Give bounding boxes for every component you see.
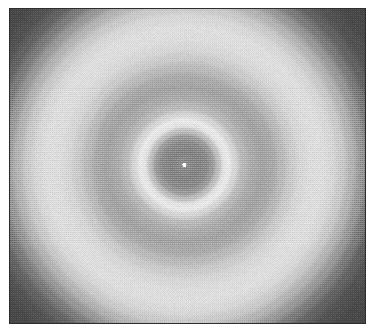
radial-interference-pattern-canvas (10, 9, 365, 323)
figure-root: Grayscale radial interference pattern: a… (0, 0, 374, 333)
image-plate-frame (9, 8, 366, 324)
